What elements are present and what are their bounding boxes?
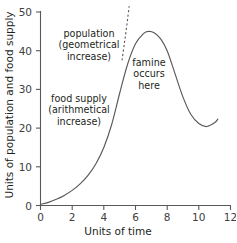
- food-supply-annotation-line-2: (arithmetical: [41, 104, 117, 115]
- x-axis-ticks: [41, 206, 231, 211]
- y-axis-ticks: [36, 12, 41, 206]
- famine-annotation-line-3: here: [124, 80, 174, 91]
- population-annotation-line-2: (geometrical: [51, 39, 127, 50]
- population-annotation-line-1: population: [51, 28, 127, 39]
- population-food-supply-chart: 0 10 20 30 40 50 0 2 4 6 8 10 12 Units o…: [0, 0, 236, 243]
- x-tick-label-8: 8: [157, 212, 177, 223]
- x-tick-label-4: 4: [94, 212, 114, 223]
- population-annotation: population (geometrical increase): [51, 28, 127, 62]
- food-supply-annotation-line-3: increase): [41, 116, 117, 127]
- x-tick-label-12: 12: [221, 212, 237, 223]
- x-tick-label-6: 6: [126, 212, 146, 223]
- famine-annotation-line-2: occurs: [124, 68, 174, 79]
- y-axis-title: Units of population and food supply: [4, 11, 15, 198]
- famine-annotation: famine occurs here: [124, 57, 174, 91]
- famine-annotation-line-1: famine: [124, 57, 174, 68]
- population-annotation-line-3: increase): [51, 51, 127, 62]
- y-axis-title-container: Units of population and food supply: [0, 0, 18, 210]
- food-supply-annotation-line-1: food supply: [41, 93, 117, 104]
- x-tick-label-0: 0: [31, 212, 51, 223]
- food-supply-annotation: food supply (arithmetical increase): [41, 93, 117, 127]
- x-axis-title: Units of time: [0, 226, 236, 237]
- x-tick-label-10: 10: [189, 212, 209, 223]
- x-tick-label-2: 2: [62, 212, 82, 223]
